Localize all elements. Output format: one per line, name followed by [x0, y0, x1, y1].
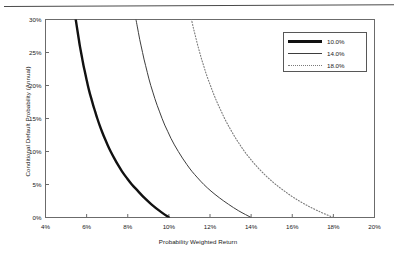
legend-item-0: 10.0% — [288, 36, 364, 47]
y-axis-tick-label: 0% — [14, 214, 42, 221]
chart-plot-container: Conditional Default Probability (Annual)… — [0, 0, 396, 255]
y-axis-tick-label: 5% — [14, 181, 42, 188]
x-axis-tick-label: 16% — [276, 223, 308, 230]
x-axis-tick-label: 14% — [235, 223, 267, 230]
thin-solid-line-swatch-icon — [288, 50, 322, 58]
legend-item-label: 18.0% — [327, 62, 345, 69]
chart-series-line — [76, 20, 169, 218]
x-axis-tick-label: 8% — [112, 223, 144, 230]
y-axis-tick-label: 15% — [14, 115, 42, 122]
legend-item-label: 14.0% — [327, 50, 345, 57]
x-axis-tick-label: 12% — [194, 223, 226, 230]
legend-item-label: 10.0% — [327, 38, 345, 45]
thick-solid-line-swatch-icon — [288, 38, 322, 46]
x-axis-title: Probability Weighted Return — [0, 238, 396, 245]
y-axis-tick-label: 20% — [14, 82, 42, 89]
chart-figure: Conditional Default Probability (Annual)… — [0, 0, 396, 255]
x-axis-tick-label: 18% — [317, 223, 349, 230]
x-axis-tick-label: 20% — [359, 223, 391, 230]
y-axis-tick-label: 25% — [14, 49, 42, 56]
x-axis-tick-label: 10% — [153, 223, 185, 230]
dotted-line-swatch-icon — [288, 62, 322, 70]
y-axis-tick-label: 30% — [14, 16, 42, 23]
y-axis-tick-label: 10% — [14, 148, 42, 155]
chart-series-line — [136, 20, 251, 218]
legend-item-1: 14.0% — [288, 48, 364, 59]
legend-item-2: 18.0% — [288, 60, 364, 71]
x-axis-tick-label: 6% — [71, 223, 103, 230]
chart-legend: 10.0% 14.0% 18.0% — [283, 32, 367, 72]
x-axis-tick-label: 4% — [30, 223, 62, 230]
